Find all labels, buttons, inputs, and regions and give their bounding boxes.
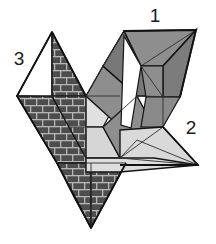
label-3: 3 [14,48,25,69]
polyhedron-illustration: 1 2 3 [0,0,216,244]
label-1: 1 [150,5,161,26]
figure-container: 1 2 3 [0,0,216,244]
label-2: 2 [186,117,197,138]
